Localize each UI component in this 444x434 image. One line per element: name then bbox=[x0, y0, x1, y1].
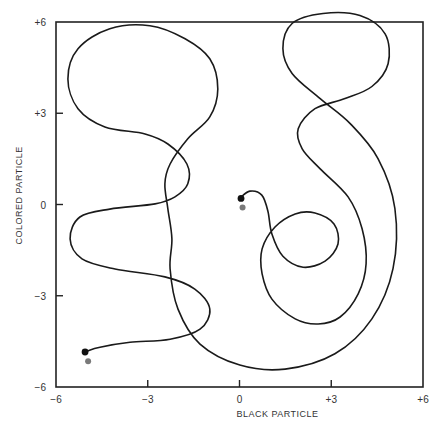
y-tick-label: 0 bbox=[40, 200, 46, 211]
y-axis-ticks: +6+30−3−6 bbox=[35, 17, 63, 393]
x-tick-label: 0 bbox=[237, 394, 243, 405]
y-axis-title: COLORED PARTICLE bbox=[14, 146, 24, 244]
chart: −6−30+3+6 +6+30−3−6 BLACK PARTICLE COLOR… bbox=[0, 0, 444, 434]
y-tick-label: +3 bbox=[35, 108, 47, 119]
particle-markers bbox=[82, 195, 246, 364]
x-axis-ticks: −6−30+3+6 bbox=[50, 380, 429, 405]
trajectory-line bbox=[68, 13, 397, 370]
end-black-particle-marker bbox=[82, 349, 89, 356]
plot-frame bbox=[56, 22, 423, 387]
start-black-particle-marker bbox=[238, 195, 245, 202]
start-colored-particle-marker bbox=[240, 205, 246, 211]
x-tick-label: +6 bbox=[417, 394, 429, 405]
end-colored-particle-marker bbox=[85, 358, 91, 364]
x-tick-label: +3 bbox=[326, 394, 338, 405]
x-axis-title: BLACK PARTICLE bbox=[236, 409, 318, 419]
y-tick-label: +6 bbox=[35, 17, 47, 28]
y-tick-label: −6 bbox=[35, 382, 47, 393]
x-tick-label: −6 bbox=[50, 394, 62, 405]
y-tick-label: −3 bbox=[35, 291, 47, 302]
x-tick-label: −3 bbox=[142, 394, 154, 405]
